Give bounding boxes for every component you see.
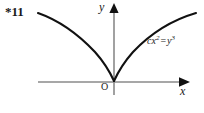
figure-container: *11 y x O cx2=y3	[0, 0, 204, 113]
y-axis-arrowhead	[109, 3, 118, 13]
equation-rhs-exponent: 3	[172, 34, 176, 42]
origin-label: O	[101, 82, 108, 92]
plot-graphic	[0, 0, 204, 113]
curve-right-branch	[114, 13, 196, 81]
equation-operator: =	[159, 35, 167, 46]
curve-left-branch	[38, 13, 114, 81]
x-axis-label: x	[180, 85, 185, 97]
curve-equation-label: cx2=y3	[147, 35, 175, 46]
y-axis-label: y	[99, 1, 104, 13]
